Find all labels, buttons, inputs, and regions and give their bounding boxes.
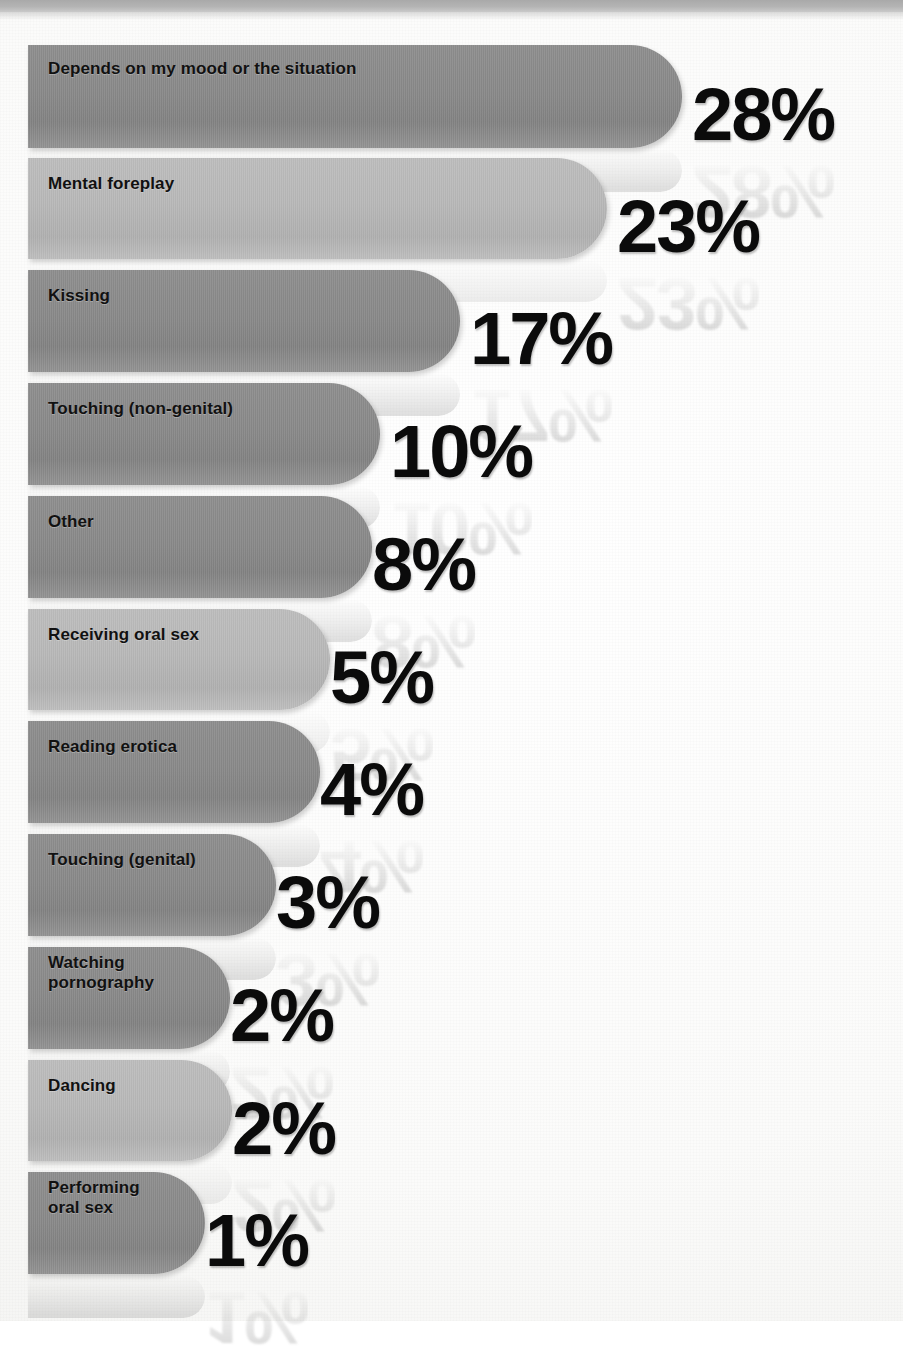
bar-category-label: Reading erotica bbox=[48, 737, 177, 757]
bar-value-label: 4% bbox=[320, 753, 423, 827]
bar-value-label: 2% bbox=[232, 1092, 335, 1166]
bar-value-label: 10% bbox=[390, 415, 532, 489]
bar-category-label: Dancing bbox=[48, 1076, 116, 1096]
bar-category-label: Performing oral sex bbox=[48, 1178, 140, 1218]
bar-value-label: 28% bbox=[692, 78, 834, 152]
bar-value-label: 1% bbox=[205, 1204, 308, 1278]
bar-value-label: 8% bbox=[372, 528, 475, 602]
bar-value-label: 3% bbox=[276, 866, 379, 940]
bar-category-label: Other bbox=[48, 512, 94, 532]
bar-value-label: 17% bbox=[470, 302, 612, 376]
bar-category-label: Receiving oral sex bbox=[48, 625, 199, 645]
bar-category-label: Mental foreplay bbox=[48, 174, 174, 194]
bar-category-label: Touching (genital) bbox=[48, 850, 196, 870]
bar-value-label: 5% bbox=[330, 641, 433, 715]
bar-value-label: 2% bbox=[230, 979, 333, 1053]
bar-category-label: Kissing bbox=[48, 286, 110, 306]
bar-category-label: Depends on my mood or the situation bbox=[48, 59, 357, 79]
value-label-reflection: 23% bbox=[617, 266, 759, 340]
bar-category-label: Touching (non-genital) bbox=[48, 399, 233, 419]
bar-category-label: Watching pornography bbox=[48, 953, 154, 993]
value-label-reflection: 1% bbox=[205, 1280, 308, 1350]
bar-value-label: 23% bbox=[617, 190, 759, 264]
bar-reflection bbox=[28, 1275, 205, 1318]
